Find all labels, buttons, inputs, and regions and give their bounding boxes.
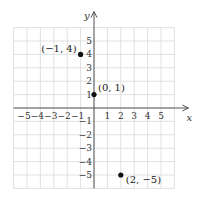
point-label: (0, 1): [98, 82, 125, 93]
y-axis-label: y: [83, 10, 90, 21]
y-tick-label: 1: [86, 90, 92, 100]
coordinate-plane: xy −5−4−3−2−11234554321−1−2−3−4−5 (−1, 4…: [0, 0, 199, 201]
data-point: [91, 92, 96, 97]
x-tick-label: 2: [118, 111, 124, 121]
point-label: (2, −5): [126, 174, 161, 185]
x-tick-label: −3: [44, 111, 58, 121]
data-point: [118, 172, 123, 177]
x-tick-label: 4: [145, 111, 151, 121]
x-tick-label: −2: [58, 111, 71, 121]
y-tick-label: 2: [86, 76, 92, 86]
x-axis-label: x: [186, 112, 192, 123]
y-tick-label: 4: [86, 49, 92, 59]
data-point: [78, 52, 83, 57]
point-label: (−1, 4): [41, 43, 76, 54]
y-tick-label: −3: [79, 143, 93, 153]
x-tick-label: 5: [158, 111, 164, 121]
y-tick-label: −1: [79, 116, 92, 126]
x-tick-label: 3: [131, 111, 137, 121]
x-tick-label: 1: [105, 111, 111, 121]
y-tick-label: 5: [86, 36, 92, 46]
y-tick-label: −2: [79, 130, 92, 140]
y-tick-label: −5: [79, 170, 93, 180]
y-tick-label: 3: [86, 63, 92, 73]
y-tick-label: −4: [79, 157, 93, 167]
x-tick-label: −5: [17, 111, 31, 121]
x-tick-label: −4: [31, 111, 45, 121]
chart-svg: xy −5−4−3−2−11234554321−1−2−3−4−5 (−1, 4…: [0, 0, 199, 201]
